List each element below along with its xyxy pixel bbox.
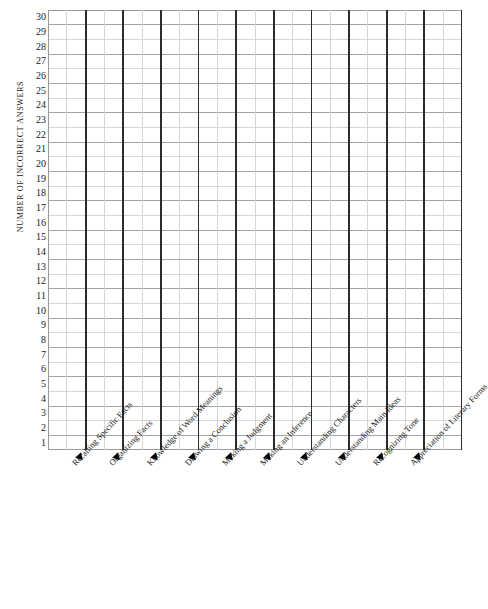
- y-axis-tick-label: 15: [22, 232, 46, 242]
- y-axis-tick-label: 17: [22, 203, 46, 213]
- y-axis-tick-label: 27: [22, 56, 46, 66]
- y-axis-tick-label: 30: [22, 12, 46, 22]
- chart-root: NUMBER OF INCORRECT ANSWERS 302928272625…: [0, 0, 488, 609]
- y-axis-tick-label: 11: [22, 291, 46, 301]
- y-axis-tick-label: 14: [22, 247, 46, 257]
- y-axis-tick-label: 24: [22, 100, 46, 110]
- y-axis-tick-label: 21: [22, 144, 46, 154]
- y-axis-tick-label: 12: [22, 276, 46, 286]
- y-axis-tick-label: 22: [22, 130, 46, 140]
- y-axis-tick-label: 6: [22, 364, 46, 374]
- y-axis-tick-label: 8: [22, 335, 46, 345]
- y-axis-tick-label: 26: [22, 71, 46, 81]
- y-axis-tick-label: 20: [22, 159, 46, 169]
- y-axis-tick-label: 18: [22, 188, 46, 198]
- y-axis-tick-label: 4: [22, 394, 46, 404]
- y-axis-tick-label: 3: [22, 408, 46, 418]
- y-axis-tick-label: 5: [22, 379, 46, 389]
- y-axis-tick-label: 7: [22, 350, 46, 360]
- y-axis-tick-label: 10: [22, 306, 46, 316]
- plot-area: [48, 10, 462, 450]
- y-axis-tick-label: 19: [22, 174, 46, 184]
- y-axis-tick-label: 1: [22, 438, 46, 448]
- grid-lines: [48, 10, 462, 450]
- y-axis-tick-label: 25: [22, 86, 46, 96]
- y-axis-tick-label: 13: [22, 262, 46, 272]
- y-axis-tick-label: 16: [22, 218, 46, 228]
- y-axis-tick-label: 29: [22, 27, 46, 37]
- y-axis-tick-labels: 3029282726252423222120191817161514131211…: [22, 10, 46, 450]
- y-axis-tick-label: 28: [22, 42, 46, 52]
- y-axis-tick-label: 2: [22, 423, 46, 433]
- y-axis-tick-label: 9: [22, 320, 46, 330]
- y-axis-tick-label: 23: [22, 115, 46, 125]
